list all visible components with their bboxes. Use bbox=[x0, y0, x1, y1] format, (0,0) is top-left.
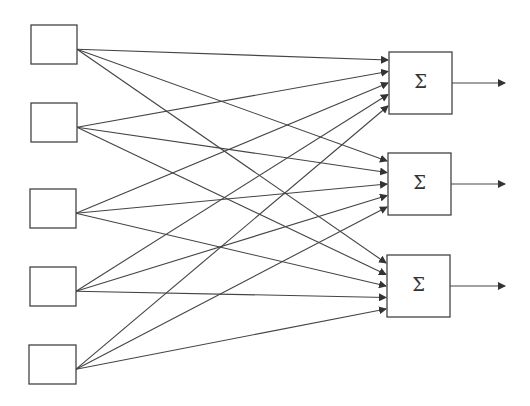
input-node-4 bbox=[30, 267, 76, 306]
edge-in5-sum1 bbox=[76, 106, 388, 369]
sigma-label-3: Σ bbox=[387, 274, 450, 295]
edge-in4-sum1 bbox=[76, 95, 388, 292]
edge-in4-sum3 bbox=[76, 291, 386, 297]
input-node-2 bbox=[31, 103, 77, 142]
edge-in5-sum2 bbox=[76, 207, 387, 369]
input-node-3 bbox=[30, 189, 76, 228]
edge-in3-sum2 bbox=[76, 184, 387, 213]
sigma-label-2: Σ bbox=[388, 172, 451, 193]
edge-in4-sum2 bbox=[76, 196, 387, 292]
sigma-label-1: Σ bbox=[389, 71, 452, 92]
input-node-5 bbox=[29, 345, 76, 384]
edge-in5-sum3 bbox=[76, 309, 386, 369]
input-node-1 bbox=[31, 25, 77, 64]
edge-in1-sum1 bbox=[77, 49, 388, 60]
edge-in1-sum2 bbox=[77, 49, 387, 161]
edge-in3-sum1 bbox=[76, 83, 388, 213]
network-diagram bbox=[0, 0, 530, 406]
edge-in1-sum3 bbox=[77, 49, 386, 263]
edge-in2-sum1 bbox=[77, 72, 388, 128]
edge-in3-sum3 bbox=[76, 213, 386, 286]
